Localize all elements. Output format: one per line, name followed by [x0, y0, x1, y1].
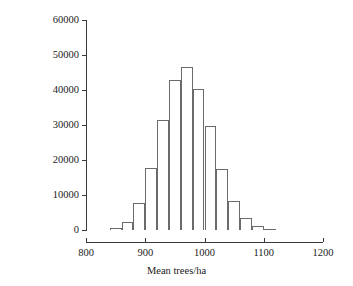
y-tick-label: 0	[74, 223, 79, 236]
x-axis-line	[86, 242, 323, 243]
histogram-bar	[216, 169, 228, 230]
x-tick-mark	[145, 238, 146, 242]
histogram-bar	[110, 228, 122, 230]
plot-area	[86, 20, 323, 230]
histogram-bar	[122, 222, 134, 230]
y-axis-line	[86, 20, 87, 231]
y-tick-mark	[82, 160, 86, 161]
x-tick-mark	[205, 238, 206, 242]
histogram-bar	[157, 120, 169, 230]
x-tick-label: 900	[137, 246, 153, 259]
y-tick-mark	[82, 195, 86, 196]
histogram-figure: 0100002000030000400005000060000 80090010…	[0, 0, 353, 286]
histogram-bar	[193, 89, 205, 230]
x-tick-label: 1000	[194, 246, 215, 259]
x-tick-mark	[86, 238, 87, 242]
y-tick-label: 40000	[53, 83, 79, 96]
x-axis-title: Mean trees/ha	[0, 264, 353, 277]
x-tick-mark	[323, 238, 324, 242]
x-tick-label: 1200	[313, 246, 334, 259]
histogram-bar	[181, 67, 193, 230]
y-tick-label: 50000	[53, 48, 79, 61]
y-tick-mark	[82, 20, 86, 21]
y-tick-label: 10000	[53, 188, 79, 201]
y-tick-label: 60000	[53, 13, 79, 26]
histogram-bar	[169, 80, 181, 231]
histogram-bar	[228, 201, 240, 230]
histogram-bar	[264, 229, 276, 230]
histogram-bar	[252, 226, 264, 230]
y-tick-label: 30000	[53, 118, 79, 131]
x-tick-mark	[264, 238, 265, 242]
x-tick-label: 800	[78, 246, 94, 259]
y-tick-mark	[82, 55, 86, 56]
y-tick-mark	[82, 230, 86, 231]
histogram-bar	[205, 126, 217, 230]
y-tick-mark	[82, 125, 86, 126]
histogram-bar	[145, 168, 157, 230]
y-tick-mark	[82, 90, 86, 91]
histogram-bar	[133, 203, 145, 230]
x-tick-label: 1100	[253, 246, 274, 259]
y-tick-label: 20000	[53, 153, 79, 166]
histogram-bar	[240, 218, 252, 230]
